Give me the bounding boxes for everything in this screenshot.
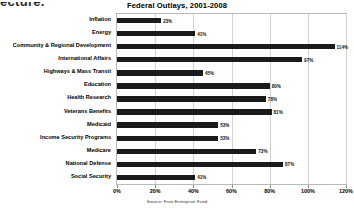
bar [117, 136, 218, 141]
category-label: Highways & Mass Transit [44, 68, 111, 75]
bar-row: 53% [117, 122, 346, 127]
category-label-row: National Defense [0, 157, 114, 170]
x-tick-label: 0% [113, 188, 121, 194]
category-label: Medicaid [87, 121, 111, 128]
category-label-row: Social Security [0, 170, 114, 183]
category-label: Energy [92, 29, 111, 36]
chart-title: Federal Outlays, 2001-2008 [0, 1, 354, 10]
bar [117, 18, 161, 23]
bar-row: 53% [117, 136, 346, 141]
bar-row: 73% [117, 149, 346, 154]
bar [117, 149, 256, 154]
bar-value-label: 45% [203, 70, 214, 75]
bar [117, 31, 195, 36]
bar-row: 97% [117, 57, 346, 62]
category-label-row: Veterans Benefits [0, 105, 114, 118]
bar [117, 162, 283, 167]
category-label-row: Medicare [0, 144, 114, 157]
bar [117, 175, 195, 180]
bar [117, 57, 302, 62]
bar-row: 41% [117, 175, 346, 180]
bar-value-label: 23% [161, 18, 172, 23]
bar-value-label: 80% [270, 83, 281, 88]
source-note: Source: Free Enterprise Fund [0, 199, 354, 204]
bar-value-label: 114% [335, 44, 349, 49]
bar [117, 44, 335, 49]
category-label-row: Health Research [0, 91, 114, 104]
chart-container: Federal Outlays, 2001-2008 InflationEner… [0, 0, 354, 211]
category-label-row: Community & Regional Development [0, 39, 114, 52]
x-tick-label: 120% [339, 188, 353, 194]
x-tick-label: 40% [188, 188, 199, 194]
bar-row: 80% [117, 83, 346, 88]
bar [117, 70, 203, 75]
category-label: Inflation [89, 16, 111, 23]
bar-row: 41% [117, 31, 346, 36]
bar-value-label: 73% [256, 149, 267, 154]
category-label-row: Medicaid [0, 118, 114, 131]
category-label: Education [84, 81, 111, 88]
bar [117, 96, 266, 101]
bar-value-label: 78% [266, 96, 277, 101]
x-tick-label: 60% [226, 188, 237, 194]
bar [117, 122, 218, 127]
bar-value-label: 41% [195, 175, 206, 180]
bar-value-label: 97% [302, 57, 313, 62]
category-label-row: Education [0, 78, 114, 91]
bar-value-label: 53% [218, 123, 229, 128]
bar [117, 109, 272, 114]
bar-row: 78% [117, 96, 346, 101]
category-label: Income Security Programs [40, 134, 111, 141]
gridline [346, 14, 347, 184]
category-label: Health Research [67, 94, 111, 101]
bar-value-label: 41% [195, 31, 206, 36]
bar-value-label: 87% [283, 162, 294, 167]
bar-value-label: 81% [272, 110, 283, 115]
bar-row: 87% [117, 162, 346, 167]
category-axis-labels: InflationEnergyCommunity & Regional Deve… [0, 13, 114, 185]
x-axis: 0%20%40%60%80%100%120% [117, 185, 347, 199]
x-tick-label: 80% [264, 188, 275, 194]
category-label-row: Energy [0, 26, 114, 39]
category-label: Medicare [87, 147, 111, 154]
bar-row: 114% [117, 44, 346, 49]
bars-layer: 23%41%114%97%45%80%78%81%53%53%73%87%41% [117, 14, 346, 184]
x-tick-label: 100% [301, 188, 315, 194]
category-label-row: International Affairs [0, 52, 114, 65]
bar-row: 23% [117, 18, 346, 23]
category-label: Social Security [71, 173, 111, 180]
category-label: Community & Regional Development [13, 42, 111, 49]
bar-row: 81% [117, 109, 346, 114]
category-label-row: Income Security Programs [0, 131, 114, 144]
bar-row: 45% [117, 70, 346, 75]
bar-value-label: 53% [218, 136, 229, 141]
category-label: Veterans Benefits [64, 108, 111, 115]
category-label-row: Inflation [0, 13, 114, 26]
category-label: National Defense [66, 160, 111, 167]
x-tick-label: 20% [150, 188, 161, 194]
bar [117, 83, 270, 88]
category-label: International Affairs [58, 55, 111, 62]
category-label-row: Highways & Mass Transit [0, 65, 114, 78]
